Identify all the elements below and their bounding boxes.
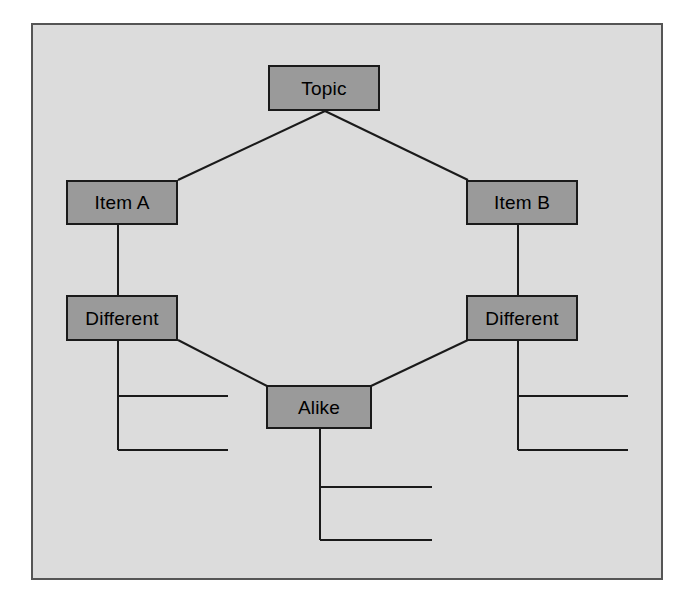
connector-different-right-to-alike	[371, 340, 468, 386]
node-topic-label: Topic	[301, 79, 346, 98]
node-item-a[interactable]: Item A	[66, 180, 178, 225]
node-item-a-label: Item A	[94, 193, 149, 212]
node-different-right-label: Different	[485, 309, 558, 328]
connector-topic-to-item-b	[325, 111, 468, 180]
node-item-b[interactable]: Item B	[466, 180, 578, 225]
write-on-lines-different-right	[518, 341, 628, 450]
node-different-left-label: Different	[85, 309, 158, 328]
diagram-page: Topic Item A Item B Different Different …	[0, 0, 689, 602]
node-alike[interactable]: Alike	[266, 385, 372, 429]
node-different-right[interactable]: Different	[466, 295, 578, 341]
connector-topic-to-item-a	[178, 111, 325, 180]
node-different-left[interactable]: Different	[66, 295, 178, 341]
node-topic[interactable]: Topic	[268, 65, 380, 111]
connector-different-left-to-alike	[178, 340, 267, 386]
write-on-lines-alike	[320, 429, 432, 540]
node-alike-label: Alike	[298, 398, 340, 417]
node-item-b-label: Item B	[494, 193, 550, 212]
